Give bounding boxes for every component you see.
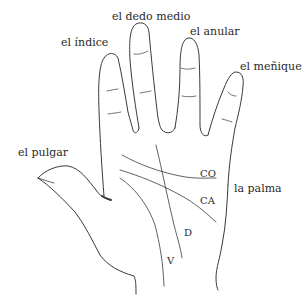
pinky-crease-2: [222, 119, 232, 122]
thumb-nail: [38, 178, 54, 183]
fate-line: [156, 145, 182, 258]
thumb-crease: [102, 196, 111, 200]
label-middle: el dedo medio: [112, 11, 190, 22]
ring-crease-1: [181, 68, 195, 69]
label-index: el índice: [61, 37, 108, 48]
label-ring: el anular: [190, 26, 240, 37]
label-heart-line: CO: [200, 169, 216, 179]
label-palm: la palma: [234, 183, 282, 194]
hand-left-edge: [38, 178, 136, 294]
thumb-outline: [38, 166, 110, 200]
pinky-crease-1: [228, 92, 236, 96]
index-finger-outline: [99, 54, 139, 197]
index-crease-1: [107, 89, 118, 91]
hand-right-edge: [216, 185, 228, 290]
life-line: [120, 178, 164, 286]
index-crease-2: [108, 112, 121, 114]
hand-diagram: el pulgar el índice el dedo medio el anu…: [0, 0, 307, 308]
middle-crease-1: [134, 51, 148, 54]
label-fate-line: D: [184, 228, 192, 238]
ring-finger-outline: [175, 38, 208, 136]
label-head-line: CA: [200, 196, 215, 206]
label-thumb: el pulgar: [18, 147, 68, 158]
middle-finger-outline: [130, 23, 175, 133]
label-life-line: V: [167, 256, 174, 266]
ring-crease-2: [182, 96, 196, 97]
middle-crease-2: [140, 91, 151, 93]
label-pinky: el meñique: [240, 61, 302, 72]
